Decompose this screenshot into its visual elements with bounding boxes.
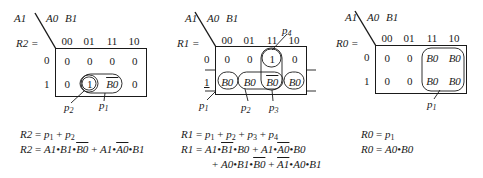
- r1-col-header-01: 01: [238, 34, 260, 46]
- r0-corner-row-var: A1: [345, 11, 357, 23]
- r1-cell-1-11: B0: [261, 71, 284, 95]
- r1-cell-1-01: B0: [239, 71, 262, 95]
- r0-cell-0-10: B0: [444, 46, 467, 70]
- r2-row-header-1: 1: [44, 78, 50, 90]
- r1-cell-0-01: 0: [239, 47, 262, 71]
- r2-row-header-0: 0: [44, 54, 50, 66]
- r0-cell-1-01: 0: [399, 70, 422, 94]
- r2-corner-row-var: A1: [14, 12, 26, 24]
- r2-cell-0-11: 0: [101, 49, 124, 73]
- r2-cell-0-00: 0: [56, 49, 79, 73]
- r1-cell-1-00: B0: [216, 71, 239, 95]
- r0-cell-1-11: B0: [421, 70, 444, 94]
- r0-row-header-0: 0: [364, 51, 370, 63]
- r0-cell-1-10: B0: [444, 70, 467, 94]
- r0-output-label: R0 =: [336, 37, 358, 49]
- r1-row-header-0: 0: [204, 53, 210, 65]
- r1-corner-col-vars: A0 B1: [207, 12, 238, 24]
- r2-cell-0-01: 0: [79, 49, 102, 73]
- r1-equation-2: R1 = A1•B1•B0 + A1•A0•B0: [181, 142, 306, 156]
- r1-cell-1-10: B0: [284, 71, 307, 95]
- r0-cell-0-01: 0: [399, 46, 422, 70]
- r0-cell-0-00: 0: [376, 46, 399, 70]
- r2-col-header-01: 01: [78, 35, 100, 47]
- r0-col-header-10: 10: [443, 32, 465, 44]
- r1-label-p1: p1: [199, 99, 209, 115]
- r1-cell-0-00: 0: [216, 47, 239, 71]
- r2-grid: 0 0 0 0 0 1 B0 0: [55, 48, 147, 97]
- r0-row-header-1: 1: [364, 75, 370, 87]
- r1-col-header-11: 11: [261, 34, 283, 46]
- r0-corner-col-vars: A0 B1: [367, 11, 398, 23]
- r1-corner-row-var: A1: [185, 12, 197, 24]
- r0-equation-2: R0 = A0•B0: [361, 142, 413, 156]
- r0-cell-1-00: 0: [376, 70, 399, 94]
- r2-label-p1: p1: [99, 99, 109, 115]
- r2-col-header-11: 11: [101, 35, 123, 47]
- r1-equation-3: + A0•B1•B0 + A1•A0•B1: [212, 157, 322, 171]
- r1-grid: 0 0 1 0 B0 B0 B0 B0: [215, 46, 307, 95]
- r1-output-label: R1 =: [177, 37, 199, 49]
- r2-label-p2: p2: [64, 101, 74, 117]
- r0-col-header-01: 01: [398, 32, 420, 44]
- r2-cell-1-10: 0: [124, 73, 147, 97]
- r1-label-p4: p4: [282, 24, 292, 40]
- r2-cell-1-01: 1: [79, 73, 102, 97]
- r2-output-label: R2 =: [16, 37, 38, 49]
- r2-cell-0-10: 0: [124, 49, 147, 73]
- r2-col-header-10: 10: [123, 35, 145, 47]
- r1-label-p2: p2: [241, 101, 251, 117]
- r2-cell-1-00: 0: [56, 73, 79, 97]
- r0-grid: 0 0 B0 B0 0 0 B0 B0: [375, 45, 467, 94]
- r0-cell-0-11: B0: [421, 46, 444, 70]
- r2-cell-1-11: B0: [101, 73, 124, 97]
- r0-col-header-00: 00: [376, 32, 398, 44]
- r2-equation-2: R2 = A1•B1•B0 + A1•A0•B1: [20, 142, 145, 156]
- r0-label-p1: p1: [427, 98, 437, 114]
- r1-row-header-1: 1: [204, 76, 210, 88]
- r1-cell-0-10: 0: [284, 47, 307, 71]
- r0-col-header-11: 11: [421, 32, 443, 44]
- r1-label-p3: p3: [269, 101, 279, 117]
- r1-cell-0-11: 1: [261, 47, 284, 71]
- r2-corner-col-vars: A0 B1: [46, 12, 77, 24]
- r2-col-header-00: 00: [56, 35, 78, 47]
- r1-col-header-00: 00: [216, 34, 238, 46]
